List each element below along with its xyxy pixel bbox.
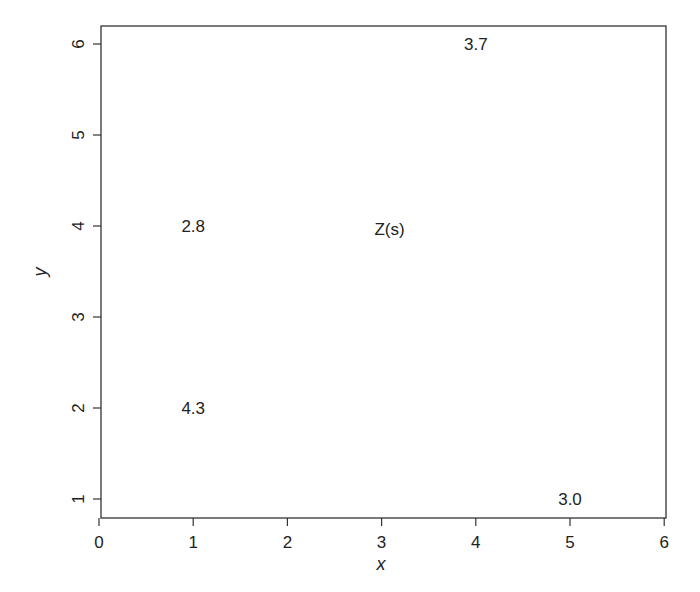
x-tick-label: 5 — [565, 533, 574, 552]
x-tick-label: 4 — [471, 533, 480, 552]
point-value-label: 3.0 — [558, 490, 582, 509]
x-axis: 0123456 — [94, 518, 669, 552]
y-axis: 123456 — [69, 39, 101, 503]
x-tick-label: 3 — [377, 533, 386, 552]
x-tick-label: 1 — [188, 533, 197, 552]
point-value-label: 4.3 — [181, 399, 205, 418]
x-axis-title: x — [376, 554, 387, 574]
chart-canvas: 0123456 123456 x y 2.84.33.73.0 Z(s) — [0, 0, 700, 592]
data-points: 2.84.33.73.0 — [181, 35, 581, 509]
y-axis-title: y — [30, 267, 50, 279]
annotation-label: Z(s) — [374, 220, 404, 239]
y-tick-label: 3 — [69, 312, 88, 321]
y-tick-label: 4 — [69, 221, 88, 230]
y-tick-label: 6 — [69, 39, 88, 48]
plot-frame — [101, 26, 666, 518]
x-tick-label: 6 — [659, 533, 668, 552]
x-tick-label: 2 — [283, 533, 292, 552]
point-value-label: 2.8 — [181, 217, 205, 236]
x-tick-label: 0 — [94, 533, 103, 552]
annotations: Z(s) — [374, 220, 404, 239]
point-value-label: 3.7 — [464, 35, 488, 54]
y-tick-label: 2 — [69, 403, 88, 412]
y-tick-label: 1 — [69, 494, 88, 503]
y-tick-label: 5 — [69, 130, 88, 139]
